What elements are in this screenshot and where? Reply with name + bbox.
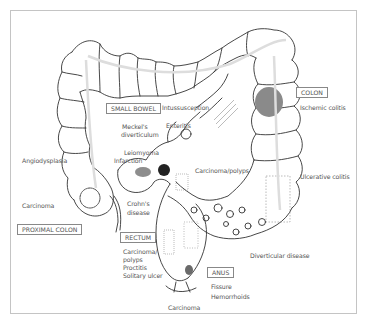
label-meckels-1: Meckel's <box>122 123 148 131</box>
region-proximal-colon: PROXIMAL COLON <box>17 224 82 235</box>
label-meckels-2: diverticulum <box>121 131 159 139</box>
region-small-bowel: SMALL BOWEL <box>106 103 161 114</box>
label-ulcerative-colitis: Ulcerative colitis <box>300 173 350 181</box>
label-diverticular-disease: Diverticular disease <box>250 252 310 260</box>
label-fissure: Fissure <box>211 283 232 291</box>
label-carcinoma-proximal: Carcinoma <box>22 202 54 210</box>
label-crohns-1: Crohn's <box>127 200 150 208</box>
label-ischemic-colitis: Ischemic colitis <box>300 104 346 112</box>
label-carcinoma-anal: Carcinoma <box>168 304 200 312</box>
label-hemorrhoids: Hemorrhoids <box>211 293 250 301</box>
label-enteritis: Enteritis <box>166 122 191 130</box>
label-proctitis: Proctitis <box>123 264 147 272</box>
label-leiomyoma: Leiomyoma <box>124 149 159 157</box>
region-rectum: RECTUM <box>120 232 156 243</box>
label-rectum-carcinoma-2: polyps <box>123 256 143 264</box>
label-rectum-carcinoma-1: Carcinoma/ <box>123 248 157 256</box>
label-carcinoma-polyps: Carcinoma/polyps <box>195 167 249 175</box>
label-infarction: Infarction <box>114 157 142 165</box>
infarction-patch <box>135 167 151 177</box>
ischemic-colitis-patch <box>255 87 283 117</box>
label-angiodysplasia: Angiodysplasia <box>22 157 67 165</box>
label-intussusception: Intussusception <box>162 104 209 112</box>
leiomyoma-mass <box>158 164 170 176</box>
anal-lesion <box>185 265 193 275</box>
label-crohns-2: disease <box>127 209 150 217</box>
region-colon: COLON <box>296 87 328 98</box>
label-solitary-ulcer: Solitary ulcer <box>123 272 163 280</box>
region-anus: ANUS <box>207 267 234 278</box>
